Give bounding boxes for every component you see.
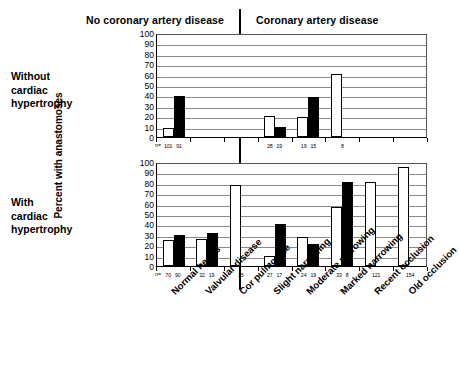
y-tick-label: 60 xyxy=(145,200,154,209)
bar-solid xyxy=(174,235,185,266)
n-value: 91 xyxy=(176,143,182,149)
n-value-cell: 2819 xyxy=(258,141,292,151)
x-axis-category-labels: Normal heartsValvular diseaseCor pulmona… xyxy=(156,289,438,376)
n-values-row-top: 10191281919158 xyxy=(156,141,427,151)
group-header-cad: Coronary artery disease xyxy=(256,14,379,26)
y-tick-label: 30 xyxy=(145,232,154,241)
bar-columns-top xyxy=(157,35,426,137)
group-header-no-cad: No coronary artery disease xyxy=(86,14,224,26)
y-tick-label: 70 xyxy=(145,190,154,199)
bar-group xyxy=(292,35,326,137)
bar-open xyxy=(163,240,174,266)
n-value: 19 xyxy=(277,143,283,149)
y-axis-tick-labels-top: 0102030405060708090100 xyxy=(137,34,154,138)
bar-open xyxy=(398,167,409,266)
y-axis-title: Percent with anastomoses xyxy=(53,56,64,256)
n-value: 33 xyxy=(336,272,342,278)
n-value: 15 xyxy=(238,272,244,278)
chart-panel-with-hypertrophy: 0102030405060708090100 n= 70903219152717… xyxy=(137,163,427,285)
y-tick-label: 40 xyxy=(145,221,154,230)
n-value-cell xyxy=(359,141,393,151)
y-axis-tick-labels-bottom: 0102030405060708090100 xyxy=(137,163,154,267)
bar-group xyxy=(258,35,292,137)
n-value-cell: 1915 xyxy=(292,141,326,151)
n-value-cell xyxy=(190,141,224,151)
bar-solid xyxy=(275,127,286,137)
bar-open xyxy=(264,116,275,137)
y-tick-label: 10 xyxy=(145,252,154,261)
bar-solid xyxy=(308,97,319,137)
bar-group xyxy=(157,164,191,266)
n-value: 28 xyxy=(267,143,273,149)
y-tick-label: 30 xyxy=(145,103,154,112)
y-tick-label: 80 xyxy=(145,180,154,189)
y-tick-label: 70 xyxy=(145,61,154,70)
n-value: 154 xyxy=(406,272,414,278)
n-value-cell: 10191 xyxy=(156,141,190,151)
y-tick-label: 50 xyxy=(145,82,154,91)
y-tick-label: 60 xyxy=(145,71,154,80)
n-value: 121 xyxy=(372,272,380,278)
bar-group xyxy=(359,35,393,137)
plot-area-top xyxy=(156,34,427,138)
y-tick-label: 80 xyxy=(145,51,154,60)
x-tickmark xyxy=(427,138,428,142)
bar-group xyxy=(191,35,225,137)
bar-open xyxy=(163,128,174,137)
y-tick-label: 0 xyxy=(149,134,154,143)
n-value: 19 xyxy=(301,143,307,149)
bar-group xyxy=(325,35,359,137)
y-tick-label: 90 xyxy=(145,169,154,178)
y-tick-label: 100 xyxy=(140,30,154,39)
y-tick-label: 50 xyxy=(145,211,154,220)
y-tick-label: 0 xyxy=(149,263,154,272)
bar-open xyxy=(297,117,308,137)
bar-solid xyxy=(174,96,185,137)
chart-panel-without-hypertrophy: 0102030405060708090100 n= 10191281919158 xyxy=(137,34,427,156)
y-tick-label: 20 xyxy=(145,113,154,122)
n-value: 8 xyxy=(341,143,344,149)
x-axis-row-top: n= 10191281919158 xyxy=(156,138,427,151)
bar-group xyxy=(224,35,258,137)
y-tick-label: 10 xyxy=(145,123,154,132)
bar-group xyxy=(157,35,191,137)
bar-group xyxy=(392,35,426,137)
y-tick-label: 100 xyxy=(140,159,154,168)
y-tick-label: 90 xyxy=(145,40,154,49)
n-value-cell xyxy=(224,141,258,151)
y-tick-label: 20 xyxy=(145,242,154,251)
n-value: 15 xyxy=(310,143,316,149)
n-value-cell: 8 xyxy=(325,141,359,151)
n-value: 70 xyxy=(165,272,171,278)
n-value-cell xyxy=(393,141,427,151)
y-tick-label: 40 xyxy=(145,92,154,101)
bar-open xyxy=(331,74,342,137)
n-value: 101 xyxy=(164,143,172,149)
